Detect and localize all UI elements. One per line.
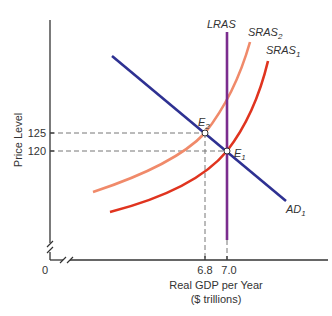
x-axis-units: ($ trillions) [191,293,242,305]
sras1-curve [110,61,268,212]
x-tick-label-70: 7.0 [221,264,236,276]
chart-svg: LRAS SRAS2 SRAS1 AD1 E2 E1 125 120 6.8 7… [0,0,332,316]
x-axis-title: Real GDP per Year [169,279,263,291]
ad1-line [112,56,286,201]
y-tick-label-120: 120 [28,145,46,157]
y-tick-label-125: 125 [28,127,46,139]
ad1-label: AD1 [285,203,306,218]
sras2-label: SRAS2 [248,26,283,41]
y-axis-title: Price Level [12,113,24,167]
origin-label: 0 [42,264,48,276]
point-e1 [224,148,230,154]
sras1-label: SRAS1 [266,44,300,59]
lras-label: LRAS [207,18,236,30]
x-tick-label-68: 6.8 [197,264,212,276]
